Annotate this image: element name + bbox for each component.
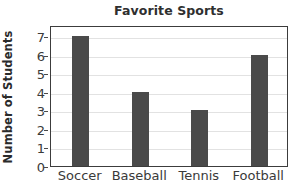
bar-chart-figure: Favorite Sports Number of Students 01234… [0,0,303,193]
x-tick-label-tennis: Tennis [178,168,219,184]
x-tick-label-baseball: Baseball [112,168,167,184]
y-axis-title-label: Number of Students [1,30,15,163]
y-tick-mark-0 [44,167,48,168]
y-tick-mark-2 [44,130,48,131]
y-tick-mark-4 [44,93,48,94]
chart-title: Favorite Sports [50,3,288,18]
x-axis-tick-labels: SoccerBaseballTennisFootball [50,168,288,190]
x-tick-label-soccer: Soccer [58,168,102,184]
bar-baseball [132,92,149,166]
y-tick-mark-5 [44,74,48,75]
y-axis-tick-labels: 01234567 [18,26,48,167]
y-tick-mark-7 [44,37,48,38]
x-tick-label-football: Football [233,168,284,184]
bars-group [51,27,287,166]
bar-soccer [72,36,89,166]
plot-area [50,26,288,167]
y-tick-mark-3 [44,111,48,112]
bar-tennis [191,110,208,166]
bar-football [251,55,268,166]
y-tick-mark-1 [44,148,48,149]
y-axis-title: Number of Students [0,26,16,167]
y-tick-mark-6 [44,56,48,57]
